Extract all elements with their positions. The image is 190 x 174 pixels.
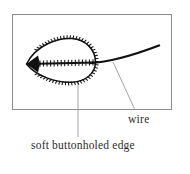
stitch-tick <box>95 64 99 65</box>
label-soft-buttonholed-edge: soft buttonholed edge <box>31 139 135 151</box>
figure-page: wire soft buttonholed edge <box>0 0 190 174</box>
stitch-tick <box>70 35 71 39</box>
stitch-tick <box>94 55 98 56</box>
stitch-tick <box>62 81 63 85</box>
label-wire: wire <box>128 113 150 125</box>
